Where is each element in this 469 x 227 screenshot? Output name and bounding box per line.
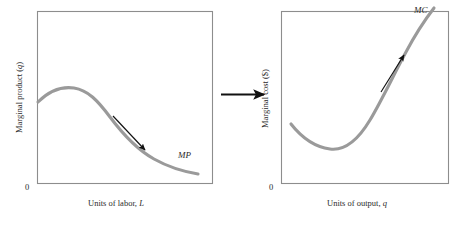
right-x-axis-label: Units of output, q [327,198,388,208]
right-y-axis-label: Marginal cost ($) [260,69,270,128]
figure-container: MP Marginal product (q) Units of labor, … [0,0,469,227]
left-y-axis-label-text: Marginal product ( [14,69,24,133]
left-x-axis-label-symbol: L [138,198,144,208]
left-x-axis-label-text: Units of labor, [88,198,139,208]
mc-direction-arrow [381,55,404,92]
mp-curve-label: MP [177,150,191,160]
right-plot-frame [282,12,449,184]
right-x-axis-label-symbol: q [383,198,388,208]
left-panel: MP Marginal product (q) Units of labor, … [14,12,213,209]
left-origin-label: 0 [25,182,29,192]
marginal-cost-curve [291,8,434,149]
left-y-axis-label: Marginal product (q) [14,62,24,133]
left-x-axis-label: Units of labor, L [88,198,144,208]
economics-diagram: MP Marginal product (q) Units of labor, … [0,0,469,227]
left-y-axis-label-close: ) [14,62,24,65]
right-panel: MC Marginal cost ($) Units of output, q … [260,5,449,208]
mc-curve-label: MC [413,5,428,15]
right-origin-label: 0 [269,182,273,192]
mp-direction-arrow [113,116,145,150]
marginal-product-curve [38,88,198,174]
right-x-axis-label-text: Units of output, [327,198,383,208]
